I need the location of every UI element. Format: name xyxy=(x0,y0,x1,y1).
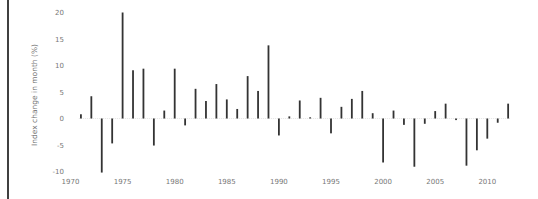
bar-1992 xyxy=(299,100,301,118)
y-tick-label: 5 xyxy=(60,89,64,97)
bar-1998 xyxy=(361,91,363,119)
bar-1997 xyxy=(351,99,353,119)
bar-1984 xyxy=(215,84,217,118)
bar-1990 xyxy=(278,119,280,136)
bar-1983 xyxy=(205,101,207,118)
x-tick-label: 1990 xyxy=(270,178,288,186)
bar-1995 xyxy=(330,119,332,134)
x-tick-label: 1970 xyxy=(62,178,80,186)
bar-2012 xyxy=(507,104,509,119)
bar-2001 xyxy=(393,111,395,119)
x-tick-label: 2010 xyxy=(478,178,496,186)
bar-1988 xyxy=(257,91,259,119)
y-tick-label: -5 xyxy=(57,142,64,150)
x-tick-label: 1995 xyxy=(322,178,340,186)
x-axis-ticks: 197019751980198519901995200020052010 xyxy=(62,178,497,186)
y-axis-title: Index change in month (%) xyxy=(30,44,39,146)
bar-2005 xyxy=(434,111,436,118)
bar-1979 xyxy=(163,111,165,119)
bar-2009 xyxy=(476,119,478,151)
bar-1994 xyxy=(320,98,322,119)
bar-2006 xyxy=(445,104,447,119)
bar-1989 xyxy=(268,45,270,118)
bar-2003 xyxy=(413,119,415,167)
bar-1975 xyxy=(122,13,124,119)
bar-1974 xyxy=(111,119,113,144)
bar-2010 xyxy=(486,119,488,139)
bar-1986 xyxy=(236,109,238,119)
bar-1976 xyxy=(132,70,134,118)
y-axis-ticks: -10-505101520 xyxy=(53,9,64,176)
bar-1996 xyxy=(341,107,343,119)
bar-2000 xyxy=(382,119,384,163)
bar-1982 xyxy=(195,89,197,119)
bar-2008 xyxy=(466,119,468,166)
bar-1978 xyxy=(153,119,155,146)
bar-2007 xyxy=(455,119,457,121)
bar-1981 xyxy=(184,119,186,126)
bar-1972 xyxy=(90,96,92,118)
y-tick-label: 0 xyxy=(60,115,64,123)
y-tick-label: 20 xyxy=(55,9,64,17)
bar-1991 xyxy=(288,116,290,118)
bar-1977 xyxy=(143,69,145,119)
bars xyxy=(80,13,509,173)
y-tick-label: 15 xyxy=(55,36,64,44)
x-tick-label: 1975 xyxy=(114,178,132,186)
bar-1980 xyxy=(174,69,176,119)
x-tick-label: 1980 xyxy=(166,178,184,186)
bar-2011 xyxy=(497,119,499,123)
bar-1987 xyxy=(247,76,249,118)
bar-2004 xyxy=(424,119,426,124)
y-tick-label: 10 xyxy=(55,62,64,70)
bar-1993 xyxy=(309,117,311,118)
bar-1985 xyxy=(226,99,228,118)
x-tick-label: 2000 xyxy=(374,178,392,186)
bar-1971 xyxy=(80,114,82,118)
bar-chart: Index change in month (%) -10-505101520 … xyxy=(0,0,538,199)
bar-2002 xyxy=(403,119,405,125)
x-tick-label: 2005 xyxy=(426,178,444,186)
x-tick-label: 1985 xyxy=(218,178,236,186)
y-tick-label: -10 xyxy=(53,168,64,176)
bar-1999 xyxy=(372,113,374,118)
bar-1973 xyxy=(101,119,103,173)
